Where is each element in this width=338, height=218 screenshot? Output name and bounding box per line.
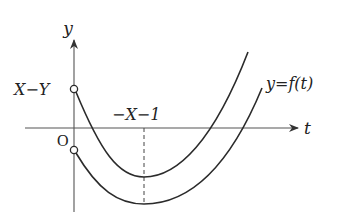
y-axis-label: y [62,18,73,38]
x-axis-label: t [304,118,311,138]
lower-open-point [70,146,77,153]
upper-open-point [70,85,77,92]
origin-label: O [57,132,69,149]
vertex-x-label: −X−1 [112,105,160,124]
lower-curve [76,88,262,204]
function-graph: y t O X−Y −X−1 y=f(t) [0,0,338,218]
curve-label: y=f(t) [265,74,313,93]
diagram-canvas: y t O X−Y −X−1 y=f(t) [0,0,338,218]
y-intercept-label: X−Y [12,80,51,99]
upper-curve [76,52,248,177]
